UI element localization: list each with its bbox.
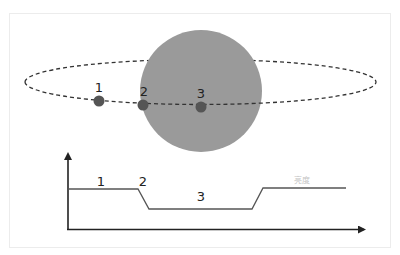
orbit-point-3: 3 bbox=[196, 86, 207, 113]
point-marker-icon bbox=[196, 102, 207, 113]
curve-label-2: 2 bbox=[139, 174, 147, 189]
curve-label-1: 1 bbox=[97, 174, 105, 189]
point-marker-icon bbox=[138, 100, 149, 111]
point-label-1: 1 bbox=[95, 80, 103, 95]
point-marker-icon bbox=[94, 96, 105, 107]
orbit-point-2: 2 bbox=[138, 84, 149, 111]
point-label-3: 3 bbox=[197, 86, 205, 101]
curve-label-3: 3 bbox=[197, 189, 205, 204]
light-curve bbox=[68, 188, 346, 209]
brightness-label: 亮度 bbox=[294, 175, 310, 185]
transit-diagram: 1 2 3 1 2 3 亮度 bbox=[0, 0, 400, 255]
point-label-2: 2 bbox=[140, 84, 148, 99]
orbit-point-1: 1 bbox=[94, 80, 105, 107]
